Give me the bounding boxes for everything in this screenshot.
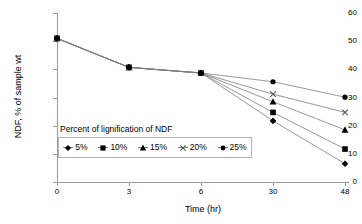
cross-marker-icon [178, 143, 188, 153]
data-point-marker [342, 126, 349, 132]
legend-entry[interactable]: 5% [63, 143, 87, 153]
legend-entry[interactable]: 15% [138, 143, 167, 153]
legend-entry[interactable]: 25% [218, 143, 247, 153]
y-axis-title: NDF, % of sample wt [14, 27, 23, 167]
circle-marker-icon [218, 143, 228, 153]
data-point-marker [270, 98, 277, 104]
diamond-marker-icon [63, 143, 73, 153]
data-point-marker [342, 146, 348, 152]
legend-label: 25% [230, 143, 247, 152]
x-axis-title: Time (hr) [57, 205, 349, 214]
legend-items: 5%10%15%20%25% [58, 137, 252, 158]
data-point-marker [342, 160, 349, 167]
data-point-marker [54, 36, 59, 41]
series-line [57, 38, 345, 130]
square-marker-icon [98, 143, 108, 153]
data-point-marker [198, 70, 203, 75]
data-point-marker [270, 91, 276, 97]
legend-label: 20% [190, 143, 207, 152]
data-point-marker [342, 110, 348, 116]
data-point-marker [270, 110, 276, 116]
legend-title: Percent of lignification of NDF [60, 125, 172, 134]
legend-entry[interactable]: 10% [98, 143, 127, 153]
data-point-marker [126, 65, 131, 70]
legend-label: 5% [75, 143, 87, 152]
legend-label: 15% [150, 143, 167, 152]
data-point-marker [270, 118, 277, 125]
series-line [57, 38, 345, 97]
data-point-marker [342, 95, 347, 100]
legend-entry[interactable]: 20% [178, 143, 207, 153]
triangle-marker-icon [138, 143, 148, 153]
legend-label: 10% [110, 143, 127, 152]
data-point-marker [270, 79, 275, 84]
